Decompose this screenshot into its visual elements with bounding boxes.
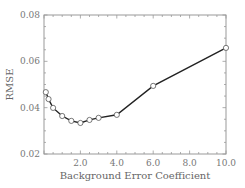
data-point-marker <box>151 83 156 88</box>
data-point-marker <box>223 45 228 50</box>
y-tick-label: 0.08 <box>20 10 40 20</box>
data-point-marker <box>69 118 74 123</box>
data-line <box>46 48 226 123</box>
plot-frame <box>44 15 226 154</box>
data-point-marker <box>87 117 92 122</box>
x-tick-label: 2.0 <box>73 158 88 168</box>
x-tick-label: 10.0 <box>216 158 236 168</box>
x-axis-label: Background Error Coefficient <box>60 170 211 181</box>
data-point-marker <box>96 115 101 120</box>
y-tick-label: 0.04 <box>20 103 40 113</box>
y-axis-label: RMSE <box>4 69 15 101</box>
y-tick-label: 0.06 <box>20 56 40 66</box>
x-tick-label: 4.0 <box>110 158 125 168</box>
x-tick-label: 8.0 <box>182 158 197 168</box>
rmse-chart: 2.04.06.08.010.00.020.040.060.08Backgrou… <box>0 0 245 188</box>
x-tick-label: 6.0 <box>146 158 161 168</box>
data-point-marker <box>60 113 65 118</box>
data-point-marker <box>43 90 48 95</box>
data-point-marker <box>51 105 56 110</box>
data-point-marker <box>46 96 51 101</box>
y-tick-label: 0.02 <box>20 149 40 159</box>
data-point-marker <box>78 120 83 125</box>
data-point-marker <box>114 112 119 117</box>
